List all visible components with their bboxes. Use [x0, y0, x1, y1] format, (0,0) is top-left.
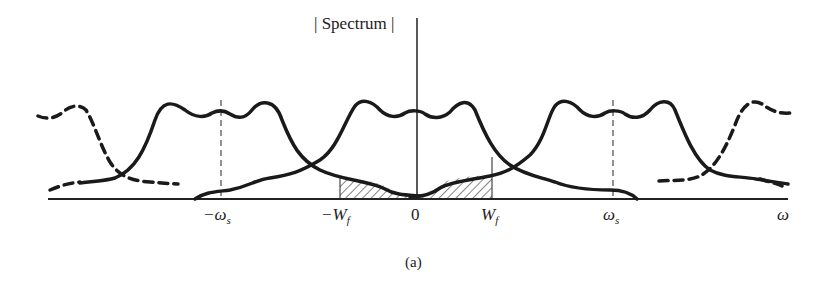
tick-neg-wf: −Wf: [321, 205, 350, 226]
x-axis-label: ω: [777, 205, 789, 225]
tick-omega-s: ωs: [603, 205, 619, 226]
spectrum-plot: [0, 0, 829, 290]
tick-wf: Wf: [481, 205, 498, 226]
tick-zero: 0: [411, 205, 420, 225]
spectrum-figure: | Spectrum | −ωs −Wf 0 Wf ωs ω (a): [0, 0, 829, 290]
tick-omega-s-sub: s: [615, 214, 619, 226]
replica-2omega-s-dashed: [659, 102, 790, 181]
replica-neg-2omega-s-tail: [50, 182, 80, 190]
tick-wf-text: W: [481, 205, 495, 224]
baseband-spectrum: [195, 101, 637, 199]
tick-neg-wf-sub: f: [347, 214, 350, 226]
tick-neg-omega-s-sub: s: [226, 214, 230, 226]
tick-omega-s-text: ω: [603, 205, 615, 224]
figure-caption: (a): [405, 254, 422, 271]
tick-neg-omega-s-text: −ω: [203, 205, 226, 224]
replica-neg-omega-s: [80, 103, 420, 196]
tick-wf-sub: f: [495, 214, 498, 226]
tick-neg-wf-text: −W: [321, 205, 347, 224]
y-axis-label: | Spectrum |: [314, 14, 394, 34]
tick-neg-omega-s: −ωs: [203, 205, 231, 226]
